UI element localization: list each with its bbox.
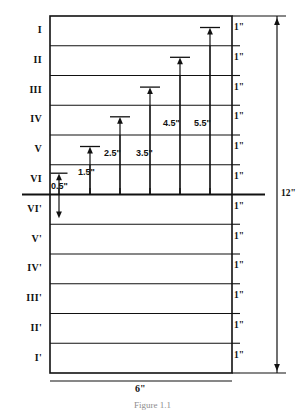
row-label-III-prime: III': [8, 292, 42, 303]
side-label-row-8: 1": [234, 231, 244, 241]
row-label-II: II: [8, 54, 42, 65]
figure-caption: Figure 1.1: [0, 400, 305, 410]
dimension-label-1-5: 1.5": [78, 167, 95, 177]
side-label-row-10: 1": [234, 290, 244, 300]
side-label-row-5: 1": [234, 141, 244, 151]
side-label-row-12: 1": [234, 350, 244, 360]
side-label-row-4: 1": [234, 111, 244, 121]
side-label-row-3: 1": [234, 82, 244, 92]
side-label-row-9: 1": [234, 260, 244, 270]
row-label-VI-prime: VI': [8, 203, 42, 214]
side-label-row-7: 1": [234, 201, 244, 211]
row-label-I-prime: I': [8, 352, 42, 363]
side-label-row-6: 1": [234, 171, 244, 181]
dimension-label-4-5: 4.5": [163, 118, 180, 128]
dimension-label-2-5: 2.5": [104, 148, 121, 158]
row-label-V-prime: V': [8, 233, 42, 244]
row-label-II-prime: II': [8, 322, 42, 333]
dimension-label-3-5: 3.5": [136, 148, 153, 158]
dimension-label-0-5: 0.5": [51, 181, 68, 191]
row-label-III: III: [8, 84, 42, 95]
total-width-label: 6": [135, 383, 146, 394]
row-label-VI: VI: [8, 173, 42, 184]
side-label-row-2: 1": [234, 52, 244, 62]
side-label-row-1: 1": [234, 22, 244, 32]
row-label-IV: IV: [8, 113, 42, 124]
row-label-V: V: [8, 143, 42, 154]
side-label-row-11: 1": [234, 320, 244, 330]
row-label-I: I: [8, 24, 42, 35]
row-label-IV-prime: IV': [8, 262, 42, 273]
dimension-label-5-5: 5.5": [194, 118, 211, 128]
total-height-label: 12": [281, 188, 296, 198]
